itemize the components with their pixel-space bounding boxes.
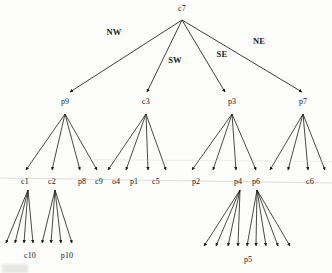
node-c3: c3 [142,97,150,106]
node-o4: o4 [112,177,120,186]
node-p3: p3 [228,97,236,106]
node-c1: c1 [21,177,29,186]
node-p9: p9 [61,97,69,106]
node-c9: c9 [95,177,103,186]
node-c7: c7 [178,4,186,13]
node-p10: p10 [61,251,73,260]
node-c6: c6 [306,177,314,186]
edges-c1-children [6,190,33,243]
edges-p9-children [26,114,97,170]
node-c2: c2 [48,177,56,186]
edges-p7-children [270,114,325,170]
edges-root-to-level1 [70,20,302,92]
edge-label-nw: NW [106,27,121,37]
node-p5: p5 [244,255,252,264]
edge-label-ne: NE [253,36,265,46]
edge-label-se: SE [217,49,228,59]
node-c10: c10 [24,251,36,260]
figure-canvas: c7 p9 c3 p3 p7 c1 c2 p8 c9 o4 p1 c5 p2 p… [0,0,332,273]
node-c5: c5 [152,177,160,186]
edges-p6-children [247,190,290,246]
node-p8: p8 [78,177,86,186]
edge-label-sw: SW [168,55,182,65]
edges-c3-children [108,114,166,170]
node-p1: p1 [130,177,138,186]
node-p6: p6 [252,177,260,186]
node-p2: p2 [192,177,200,186]
tree-edges [0,0,332,273]
node-p7: p7 [299,97,307,106]
node-p4: p4 [234,177,242,186]
edges-p4-children [204,190,240,246]
edges-p3-children [192,114,256,170]
edges-c2-children [42,190,72,243]
